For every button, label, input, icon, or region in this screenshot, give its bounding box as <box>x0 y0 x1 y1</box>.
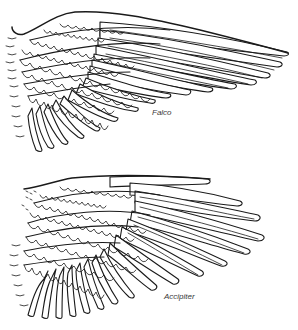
accipiter-wing-illustration <box>0 165 298 330</box>
falco-marginal-coverts <box>6 38 24 137</box>
falco-wing-illustration <box>0 0 298 165</box>
falco-label: Falco <box>152 108 172 117</box>
accipiter-label: Accipiter <box>164 292 195 301</box>
accipiter-marginal-coverts <box>10 245 28 306</box>
wing-comparison-figure: Falco Accipiter <box>0 0 298 330</box>
